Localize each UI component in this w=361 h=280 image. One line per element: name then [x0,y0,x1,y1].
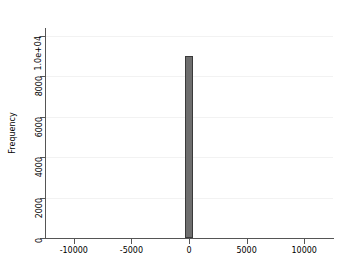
x-axis-tick-label: 10000 [291,246,316,255]
y-axis-tick-label: 6000 [35,117,44,137]
y-axis-tick-label: 1.0e+04 [35,36,44,71]
x-axis-tick [74,239,75,244]
y-axis-tick-label: 8000 [35,76,44,96]
y-axis-line [45,28,46,239]
x-axis-tick [189,239,190,244]
x-axis-tick-label: 5000 [236,246,256,255]
histogram-figure: Frequency 020004000600080001.0e+04-10000… [0,0,361,280]
y-axis-tick-label: 0 [35,238,44,243]
x-axis-tick [131,239,132,244]
x-axis-tick [247,239,248,244]
gridline-horizontal [45,36,333,37]
x-axis-tick-label: 0 [186,246,191,255]
x-axis-tick [304,239,305,244]
x-axis-tick-label: -10000 [60,246,88,255]
y-axis-tick-label: 2000 [35,198,44,218]
histogram-bar [185,56,193,238]
x-axis-tick-label: -5000 [120,246,143,255]
y-axis-label: Frequency [8,112,17,153]
plot-area [45,28,333,238]
y-axis-tick-label: 4000 [35,157,44,177]
